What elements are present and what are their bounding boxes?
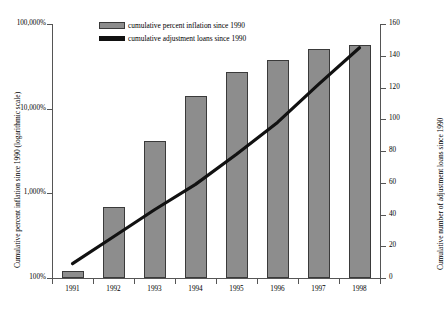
y-left-tick-label: 100% [0, 274, 46, 281]
x-axis-tick [216, 279, 217, 284]
x-axis-label-1998: 1998 [340, 286, 380, 293]
y-axis-right-title: Cumulative number of adjustment loans si… [436, 118, 445, 270]
y-right-tick [380, 151, 386, 152]
x-axis-label-1995: 1995 [217, 286, 257, 293]
chart-legend: cumulative percent inflation since 1990 … [99, 20, 246, 46]
y-right-tick [380, 215, 386, 216]
y-right-tick-label: 160 [389, 20, 400, 27]
x-axis-tick [175, 279, 176, 284]
bar-1992 [103, 207, 125, 278]
legend-item-inflation: cumulative percent inflation since 1990 [99, 20, 246, 31]
bar-1993 [144, 141, 166, 278]
y-right-tick [380, 183, 386, 184]
x-axis-tick [134, 279, 135, 284]
x-axis-tick [380, 279, 381, 284]
y-right-tick-label: 80 [389, 147, 396, 154]
y-right-tick-label: 60 [389, 179, 396, 186]
line-swatch-icon [99, 36, 125, 41]
chart-container: cumulative percent inflation since 1990 … [0, 0, 445, 313]
y-left-tick-label: 10,000% [0, 105, 46, 112]
y-right-tick-label: 20 [389, 242, 396, 249]
y-right-tick [380, 119, 386, 120]
y-right-tick-label: 40 [389, 211, 396, 218]
y-axis-left-title: Cumulative percent inflation since 1990 … [13, 92, 22, 268]
y-right-tick [380, 24, 386, 25]
y-left-tick-label: 1,000% [0, 189, 46, 196]
bar-1994 [185, 96, 207, 278]
x-axis-label-1994: 1994 [176, 286, 216, 293]
y-right-tick [380, 246, 386, 247]
y-right-tick-label: 120 [389, 84, 400, 91]
bar-1991 [62, 271, 84, 278]
legend-item-loans: cumulative adjustment loans since 1990 [99, 33, 246, 44]
bar-1997 [308, 49, 330, 278]
x-axis-tick [93, 279, 94, 284]
x-axis-label-1997: 1997 [299, 286, 339, 293]
x-axis-label-1991: 1991 [53, 286, 93, 293]
x-axis-label-1992: 1992 [94, 286, 134, 293]
x-axis-tick [52, 279, 53, 284]
legend-label-inflation: cumulative percent inflation since 1990 [128, 22, 245, 30]
bar-1996 [267, 60, 289, 278]
x-axis-tick [257, 279, 258, 284]
x-axis-tick [339, 279, 340, 284]
y-left-tick-label: 100,000% [0, 20, 46, 27]
y-left-tick [47, 109, 53, 110]
y-right-tick-label: 100 [389, 115, 400, 122]
y-axis-left-line [52, 24, 53, 279]
bar-1998 [349, 45, 371, 278]
y-right-tick-label: 0 [389, 274, 393, 281]
x-axis-label-1996: 1996 [258, 286, 298, 293]
legend-label-loans: cumulative adjustment loans since 1990 [128, 35, 246, 43]
loans-line-layer [0, 0, 445, 313]
y-left-tick [47, 24, 53, 25]
x-axis-tick [298, 279, 299, 284]
y-left-tick [47, 193, 53, 194]
y-right-tick-label: 140 [389, 52, 400, 59]
y-right-tick [380, 56, 386, 57]
y-right-tick [380, 88, 386, 89]
x-axis-label-1993: 1993 [135, 286, 175, 293]
bar-1995 [226, 72, 248, 278]
bar-swatch-icon [99, 22, 125, 29]
